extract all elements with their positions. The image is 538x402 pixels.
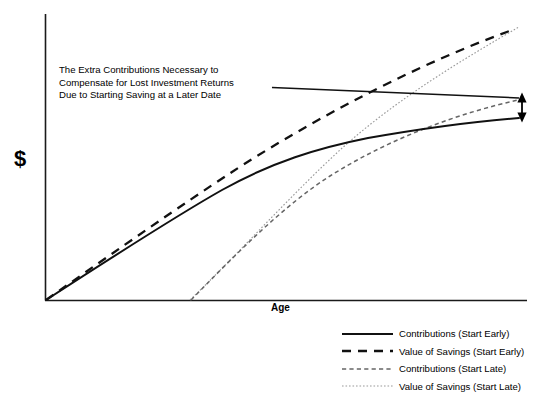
savings-growth-chart: $ Age The Extra Contributions Necessary … xyxy=(0,0,538,402)
legend-item: Value of Savings (Start Early) xyxy=(341,343,537,361)
legend-swatch-dotted xyxy=(341,380,394,392)
annotation-leader-line xyxy=(272,88,519,99)
x-axis-label: Age xyxy=(271,302,290,313)
y-axis-label: $ xyxy=(14,146,26,172)
legend-label: Value of Savings (Start Late) xyxy=(394,381,521,392)
legend-item: Value of Savings (Start Late) xyxy=(341,378,537,396)
legend-label: Contributions (Start Early) xyxy=(394,328,509,339)
series-contributions-start-late xyxy=(191,100,518,300)
legend-swatch-solid xyxy=(341,328,394,340)
legend-item: Contributions (Start Early) xyxy=(341,325,537,343)
chart-legend: Contributions (Start Early) Value of Sav… xyxy=(341,325,537,395)
legend-swatch-short-dashed xyxy=(341,363,394,375)
legend-label: Value of Savings (Start Early) xyxy=(394,346,524,357)
legend-item: Contributions (Start Late) xyxy=(341,360,537,378)
chart-annotation-text: The Extra Contributions Necessary to Com… xyxy=(59,64,274,102)
legend-swatch-dashed xyxy=(341,345,394,357)
series-contributions-start-early xyxy=(46,118,519,300)
legend-label: Contributions (Start Late) xyxy=(394,363,506,374)
